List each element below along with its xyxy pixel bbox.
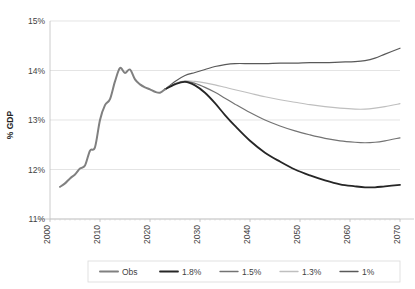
- series-line-obs: [60, 68, 165, 187]
- x-tick-label: 2010: [92, 225, 102, 244]
- x-tick-label: 2000: [42, 225, 52, 244]
- line-chart: 11%12%13%14%15% 200020102020203020402050…: [0, 0, 415, 289]
- legend-label-obs: Obs: [122, 267, 138, 277]
- legend-label-18: 1.8%: [182, 267, 202, 277]
- y-tick-label: 15%: [28, 16, 45, 26]
- legend-label-1: 1%: [362, 267, 375, 277]
- x-tick-label: 2060: [342, 225, 352, 244]
- x-tick-label: 2050: [292, 225, 302, 244]
- series-line-15: [165, 81, 400, 142]
- gridlines: [50, 21, 400, 219]
- x-tick-marks: [50, 219, 400, 222]
- y-tick-label: 11%: [29, 214, 46, 224]
- y-tick-label: 12%: [28, 165, 45, 175]
- series-line-18: [165, 82, 400, 188]
- x-tick-label: 2070: [392, 225, 402, 244]
- x-tick-label: 2030: [192, 225, 202, 244]
- y-tick-label: 14%: [28, 66, 45, 76]
- legend-label-15: 1.5%: [242, 267, 262, 277]
- y-axis-title: % GDP: [5, 111, 15, 140]
- series-lines: [60, 48, 400, 187]
- x-tick-labels: 20002010202020302040205020602070: [42, 225, 402, 244]
- y-tick-label: 13%: [28, 115, 45, 125]
- chart-container: 11%12%13%14%15% 200020102020203020402050…: [0, 0, 415, 289]
- y-tick-labels: 11%12%13%14%15%: [28, 16, 45, 224]
- series-line-1: [165, 48, 400, 89]
- legend-label-13: 1.3%: [302, 267, 322, 277]
- x-tick-label: 2040: [242, 225, 252, 244]
- x-tick-label: 2020: [142, 225, 152, 244]
- chart-legend: Obs1.8%1.5%1.3%1%: [88, 261, 400, 282]
